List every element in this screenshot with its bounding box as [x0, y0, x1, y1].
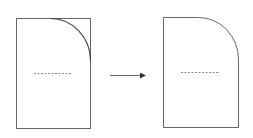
after-shape	[164, 18, 239, 128]
before-shape	[17, 19, 91, 129]
rounded-rectangle	[164, 18, 239, 128]
corner-arc-guide	[51, 19, 91, 61]
diagram-canvas	[0, 0, 253, 138]
